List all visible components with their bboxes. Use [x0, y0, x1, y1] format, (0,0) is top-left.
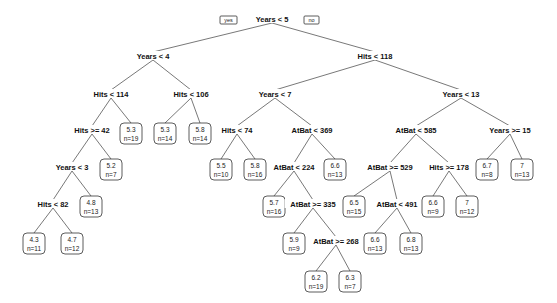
leaf-count: n=7: [105, 171, 116, 178]
split-node: AtBat < 224: [268, 162, 320, 172]
tree-edge: [111, 60, 153, 90]
tree-edge: [53, 208, 72, 233]
tree-edge: [390, 171, 397, 200]
leaf-prediction: 4.3: [29, 236, 38, 243]
leaf-prediction: 6.6: [370, 236, 379, 243]
leaf-prediction: 7: [520, 162, 524, 169]
split-node: AtBat >= 335: [285, 199, 342, 209]
leaf-node: 5.5n=10: [210, 159, 232, 180]
leaf-prediction: 5.3: [126, 126, 135, 133]
leaf-node: 5.8n=16: [244, 159, 266, 180]
split-condition: Years < 3: [56, 163, 89, 172]
tree-nodes: Years < 5Years < 4Hits < 118Hits < 114Hi…: [23, 14, 536, 292]
leaf-node: 6.7n=8: [476, 159, 498, 180]
leaf-node: 6.6n=13: [364, 233, 386, 254]
leaf-prediction: 5.9: [289, 236, 298, 243]
split-condition: AtBat >= 268: [313, 237, 358, 246]
leaf-prediction: 6.5: [349, 199, 358, 206]
leaf-count: n=14: [158, 135, 173, 142]
tree-edge: [72, 171, 91, 196]
leaf-node: 5.2n=7: [100, 159, 122, 180]
split-condition: Hits >= 42: [74, 126, 109, 135]
leaf-prediction: 5.2: [106, 162, 115, 169]
tree-edge: [312, 134, 335, 159]
split-node: AtBat < 491: [371, 199, 423, 209]
split-condition: Years < 7: [259, 90, 292, 99]
tree-edge: [237, 134, 255, 159]
leaf-prediction: 7: [465, 199, 469, 206]
split-node: AtBat < 369: [286, 125, 338, 135]
leaf-prediction: 4.8: [86, 199, 95, 206]
split-condition: AtBat >= 335: [290, 200, 335, 209]
split-node: Hits >= 178: [423, 162, 475, 172]
tree-edge: [237, 98, 275, 126]
split-condition: Hits < 106: [173, 90, 208, 99]
leaf-count: n=8: [481, 171, 492, 178]
split-condition: Hits < 114: [94, 90, 130, 99]
leaf-node: 6.2n=19: [305, 271, 327, 292]
leaf-count: n=13: [404, 245, 419, 252]
split-node: AtBat < 585: [390, 125, 442, 135]
leaf-node: 7n=13: [511, 159, 533, 180]
leaf-node: 6.5n=15: [343, 196, 365, 217]
split-node: Years < 3: [50, 162, 94, 172]
leaf-count: n=16: [267, 208, 282, 215]
tree-edge: [433, 171, 449, 196]
tree-edge: [510, 134, 522, 159]
tree-edge: [72, 134, 92, 163]
tree-edge: [461, 98, 510, 126]
leaf-prediction: 5.5: [216, 162, 225, 169]
split-condition: Years < 5: [256, 15, 289, 24]
leaf-prediction: 5.8: [250, 162, 259, 169]
split-condition: AtBat < 224: [273, 163, 315, 172]
tree-edge: [92, 134, 111, 159]
tree-edge: [416, 98, 461, 126]
leaf-count: n=11: [27, 245, 42, 252]
tree-edge: [153, 23, 272, 52]
leaf-prediction: 6.8: [406, 236, 415, 243]
leaf-node: 4.7n=12: [61, 233, 83, 254]
split-condition: Hits >= 178: [429, 163, 469, 172]
leaf-prediction: 6.6: [428, 199, 437, 206]
no-branch-label: no: [308, 17, 314, 23]
tree-edge: [165, 98, 191, 123]
leaf-prediction: 5.7: [269, 199, 278, 206]
leaf-count: n=19: [309, 283, 324, 290]
tree-edge: [294, 171, 313, 200]
tree-edge: [53, 171, 72, 200]
split-node: Hits < 118: [351, 51, 399, 61]
split-node: AtBat >= 268: [308, 236, 365, 246]
tree-edge: [111, 98, 131, 123]
tree-edge: [294, 208, 313, 233]
leaf-count: n=13: [368, 245, 383, 252]
leaf-count: n=12: [65, 245, 80, 252]
split-node: Years < 4: [131, 51, 175, 61]
tree-edge: [397, 208, 411, 233]
leaf-prediction: 4.7: [67, 236, 76, 243]
leaf-prediction: 5.3: [160, 126, 169, 133]
split-node: Hits < 106: [167, 89, 215, 99]
leaf-prediction: 6.2: [311, 274, 320, 281]
leaf-count: n=12: [460, 208, 475, 215]
leaf-count: n=9: [288, 245, 299, 252]
tree-edge: [153, 60, 191, 90]
leaf-count: n=9: [427, 208, 438, 215]
tree-edge: [390, 134, 416, 163]
split-condition: AtBat < 369: [291, 126, 332, 135]
tree-edge: [34, 208, 53, 233]
split-condition: Years >= 15: [489, 126, 530, 135]
leaf-count: n=15: [347, 208, 362, 215]
split-node: Years < 5: [250, 14, 294, 24]
tree-edge: [294, 134, 312, 163]
leaf-node: 5.3n=14: [154, 123, 176, 144]
split-node: Years >= 15: [484, 125, 536, 135]
split-node: Years < 7: [253, 89, 297, 99]
split-node: Years < 13: [437, 89, 485, 99]
leaf-node: 5.7n=16: [263, 196, 285, 217]
tree-edges: [34, 23, 522, 271]
split-node: Hits < 114: [87, 89, 135, 99]
tree-edge: [487, 134, 510, 159]
leaf-count: n=19: [124, 135, 139, 142]
tree-edge: [191, 98, 200, 123]
split-node: AtBat >= 529: [362, 162, 419, 172]
